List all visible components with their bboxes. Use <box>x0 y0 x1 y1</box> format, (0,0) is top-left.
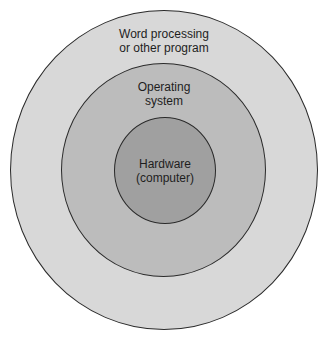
operating-system-layer-label: Operating system <box>138 80 191 108</box>
operating-system-layer-label-line-2: system <box>138 94 191 108</box>
hardware-layer-label-line-2: (computer) <box>136 171 194 185</box>
hardware-layer-label-line-1: Hardware <box>136 157 194 171</box>
application-layer-label-line-1: Word processing <box>119 27 209 41</box>
application-layer-label-line-2: or other program <box>119 41 209 55</box>
layers-diagram: Word processing or other program Operati… <box>0 0 321 341</box>
application-layer-label: Word processing or other program <box>119 27 209 55</box>
hardware-layer-label: Hardware (computer) <box>136 157 194 185</box>
operating-system-layer-label-line-1: Operating <box>138 80 191 94</box>
